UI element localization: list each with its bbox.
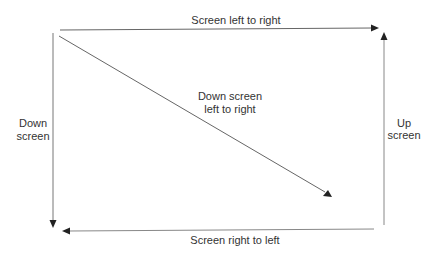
screen-direction-diagram: Screen left to right Down screen left to… (0, 0, 441, 258)
arrow-diagonal-down-right (59, 36, 332, 197)
label-down-line1: Down (19, 117, 47, 129)
arrowhead-up-icon (381, 32, 388, 40)
arrow-down-screen (50, 33, 57, 228)
label-screen-left-to-right: Screen left to right (191, 14, 280, 26)
arrow-up-screen (381, 32, 388, 225)
label-diagonal-line1: Down screen (198, 90, 262, 102)
arrowhead-right-icon (371, 25, 379, 32)
label-up-line1: Up (397, 117, 411, 129)
label-up-line2: screen (387, 129, 420, 141)
label-diagonal-line2: left to right (204, 103, 255, 115)
label-screen-right-to-left: Screen right to left (190, 234, 279, 246)
arrowhead-down-icon (50, 220, 57, 228)
arrowhead-left-icon (62, 228, 70, 235)
label-down-line2: screen (16, 130, 49, 142)
